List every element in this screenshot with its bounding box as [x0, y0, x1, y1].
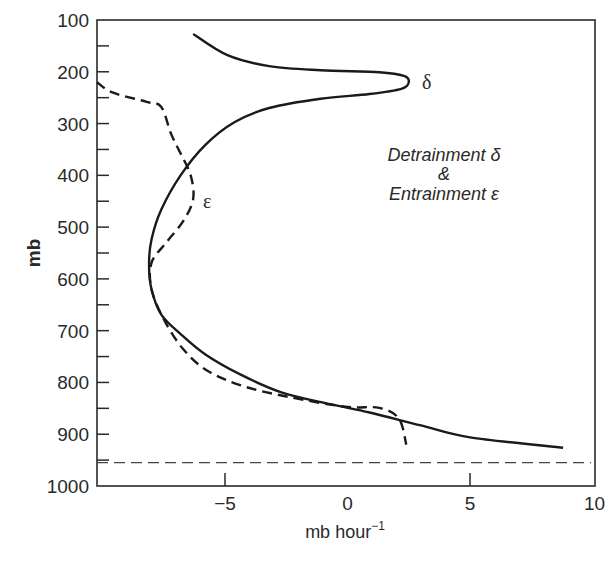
detrainment-curve: [149, 34, 563, 448]
annotation-line-1: Detrainment δ: [387, 145, 501, 165]
chart-canvas: 1002003004005006007008009001000 −50510 m…: [0, 0, 613, 563]
y-tick-label: 200: [57, 62, 89, 83]
y-axis-title: mb: [23, 239, 44, 268]
x-axis-title: mb hour−1: [305, 519, 385, 542]
delta-curve-label: δ: [422, 71, 431, 93]
entrainment-curve: [97, 82, 406, 444]
x-tick-label: 0: [342, 493, 353, 514]
annotation-line-3: Entrainment ε: [389, 184, 500, 204]
y-tick-label: 1000: [47, 476, 89, 497]
y-tick-label: 300: [57, 114, 89, 135]
annotation-line-2: &: [438, 164, 450, 184]
series-layer: [97, 34, 563, 448]
x-tick-label: −5: [214, 493, 236, 514]
annotation-legend: Detrainment δ & Entrainment ε: [387, 145, 501, 204]
y-tick-label: 400: [57, 165, 89, 186]
x-tick-label: 5: [465, 493, 476, 514]
y-tick-label: 900: [57, 424, 89, 445]
y-tick-label: 500: [57, 217, 89, 238]
y-tick-label: 800: [57, 372, 89, 393]
x-axis-ticks: −50510: [214, 473, 605, 514]
y-tick-label: 100: [57, 10, 89, 31]
y-tick-label: 600: [57, 269, 89, 290]
y-tick-label: 700: [57, 321, 89, 342]
plot-frame: [97, 20, 595, 486]
epsilon-curve-label: ε: [203, 190, 211, 212]
x-tick-label: 10: [584, 493, 605, 514]
